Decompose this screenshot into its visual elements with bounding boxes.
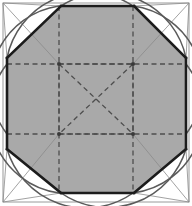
node-upper-left	[57, 62, 61, 66]
node-lower-right	[131, 132, 135, 136]
geometric-figure	[0, 0, 192, 206]
node-lower-left	[57, 132, 61, 136]
figure-container	[0, 0, 192, 206]
node-upper-right	[131, 62, 135, 66]
